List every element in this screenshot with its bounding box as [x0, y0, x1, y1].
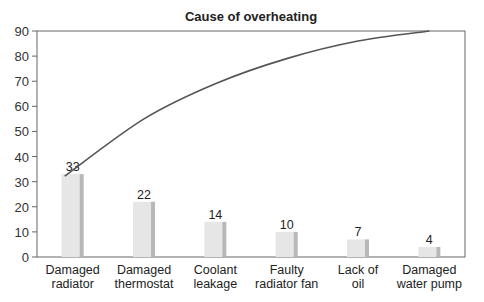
y-tick-label: 0: [22, 250, 29, 265]
y-tick-label: 20: [15, 200, 29, 215]
bar: [276, 232, 294, 257]
bar-value-label: 14: [208, 208, 222, 222]
y-tick-label: 60: [15, 99, 29, 114]
bar: [62, 174, 80, 257]
bar-shade: [436, 247, 440, 257]
y-tick-label: 50: [15, 124, 29, 139]
x-category-label: Damaged: [117, 263, 171, 277]
chart-title: Cause of overheating: [185, 9, 317, 24]
bar: [133, 202, 151, 257]
plot-frame: [37, 31, 465, 257]
bar: [204, 222, 222, 257]
bar-shade: [222, 222, 226, 257]
x-category-label: radiator: [51, 277, 93, 291]
bar-shade: [365, 239, 369, 257]
x-category-label: radiator fan: [255, 277, 318, 291]
x-category-label: oil: [352, 277, 365, 291]
x-category-label: Lack of: [338, 263, 379, 277]
bar-value-label: 4: [426, 233, 433, 247]
bar-shade: [80, 174, 84, 257]
pareto-chart: Cause of overheating01020304050607080903…: [0, 0, 484, 302]
x-category-label: Damaged: [46, 263, 100, 277]
y-tick-label: 30: [15, 175, 29, 190]
x-category-label: Faulty: [270, 263, 305, 277]
y-tick-label: 80: [15, 49, 29, 64]
bar-value-label: 7: [355, 225, 362, 239]
bar: [418, 247, 436, 257]
y-tick-label: 70: [15, 74, 29, 89]
cumulative-line: [65, 31, 430, 176]
bar-value-label: 22: [137, 188, 151, 202]
bar-value-label: 10: [280, 218, 294, 232]
x-category-label: Coolant: [194, 263, 238, 277]
x-category-label: water pump: [396, 277, 462, 291]
bar-shade: [151, 202, 155, 257]
y-tick-label: 10: [15, 225, 29, 240]
x-category-label: Damaged: [402, 263, 456, 277]
y-tick-label: 90: [15, 24, 29, 39]
bar: [347, 239, 365, 257]
bar-shade: [294, 232, 298, 257]
x-category-label: leakage: [193, 277, 237, 291]
y-tick-label: 40: [15, 150, 29, 165]
x-category-label: thermostat: [114, 277, 174, 291]
